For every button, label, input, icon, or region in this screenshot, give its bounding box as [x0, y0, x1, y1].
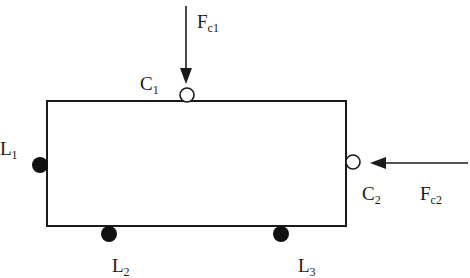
force-fc2-arrowhead-icon — [370, 157, 386, 169]
contact-c1-label: C1 — [140, 73, 159, 97]
locator-l2-label: L2 — [112, 255, 130, 278]
force-fc2-label: Fc2 — [420, 183, 442, 207]
free-body-diagram: Fc1 C1 Fc2 C2 L1 L2 — [0, 0, 470, 278]
locator-l3-label: L3 — [298, 255, 316, 278]
force-fc2: Fc2 — [370, 157, 468, 207]
force-fc1-arrowhead-icon — [180, 68, 192, 84]
filled-circle-icon — [32, 157, 48, 173]
open-circle-icon — [180, 88, 194, 102]
contact-c2-label: C2 — [362, 183, 381, 207]
filled-circle-icon — [101, 226, 117, 242]
filled-circle-icon — [273, 226, 289, 242]
force-fc1: Fc1 — [180, 6, 219, 84]
locator-point-l2: L2 — [101, 226, 130, 278]
locator-l1-label: L1 — [0, 138, 18, 162]
open-circle-icon — [346, 155, 360, 169]
locator-point-l1: L1 — [0, 138, 48, 173]
locator-point-l3: L3 — [273, 226, 316, 278]
force-fc1-label: Fc1 — [197, 11, 219, 35]
rigid-body-rectangle — [47, 101, 346, 226]
